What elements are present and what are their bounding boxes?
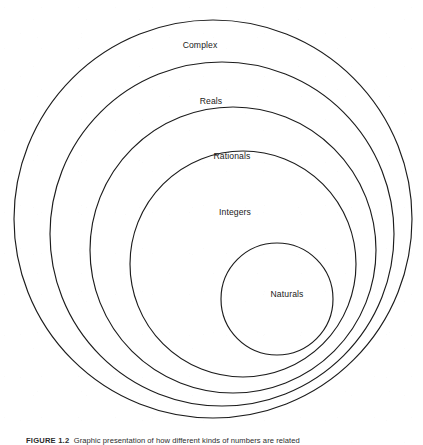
number-sets-diagram: Complex Reals Rationals Integers Natural… xyxy=(0,0,423,430)
figure-caption-id: FIGURE 1.2 xyxy=(26,436,69,445)
set-circle-naturals xyxy=(221,243,333,355)
set-label-integers: Integers xyxy=(219,208,251,217)
set-label-rationals: Rationals xyxy=(214,152,251,161)
set-label-reals: Reals xyxy=(200,97,223,106)
set-label-naturals: Naturals xyxy=(271,290,304,299)
figure-caption-text: Graphic presentation of how different ki… xyxy=(74,436,300,445)
set-circle-reals xyxy=(50,62,394,406)
figure-caption: FIGURE 1.2 Graphic presentation of how d… xyxy=(26,436,418,445)
figure-container: Complex Reals Rationals Integers Natural… xyxy=(0,0,423,445)
set-label-complex: Complex xyxy=(183,41,218,50)
set-circle-complex xyxy=(14,20,412,418)
